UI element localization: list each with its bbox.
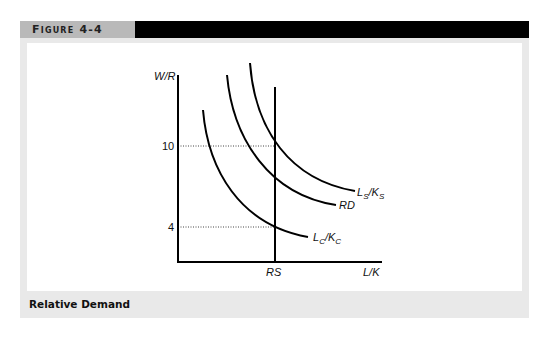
y-tick-4: 4	[168, 221, 174, 233]
rd-label: RD	[339, 199, 355, 211]
relative-demand-chart: W/R L/K RS 10 4 RD LS/KS LC/KC	[0, 0, 547, 346]
x-axis-label: L/K	[363, 266, 380, 278]
rd-curve	[227, 75, 336, 205]
y-axis-label: W/R	[154, 70, 175, 82]
y-tick-10: 10	[162, 140, 174, 152]
lc-kc-label: LC/KC	[313, 231, 341, 246]
rs-tick-label: RS	[266, 266, 282, 278]
ls-ks-curve	[250, 63, 355, 191]
ls-ks-label: LS/KS	[357, 186, 385, 201]
lc-kc-curve	[203, 110, 308, 237]
